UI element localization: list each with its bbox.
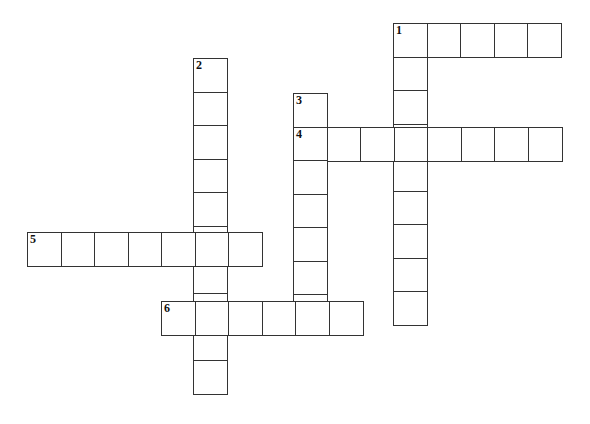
crossword-cell[interactable] bbox=[262, 301, 297, 336]
crossword-cell[interactable] bbox=[193, 159, 228, 194]
crossword-cell[interactable] bbox=[427, 23, 462, 58]
crossword-cell[interactable] bbox=[393, 57, 428, 92]
clue-number: 3 bbox=[296, 94, 302, 107]
crossword-cell[interactable] bbox=[293, 261, 328, 296]
crossword-cell[interactable] bbox=[393, 191, 428, 226]
crossword-cell[interactable] bbox=[293, 194, 328, 229]
clue-number: 5 bbox=[30, 233, 36, 246]
crossword-cell[interactable] bbox=[394, 127, 429, 162]
crossword-cell[interactable] bbox=[461, 127, 496, 162]
crossword-grid: 123456 bbox=[0, 0, 590, 424]
crossword-cell[interactable] bbox=[393, 157, 428, 192]
crossword-cell[interactable] bbox=[494, 23, 529, 58]
crossword-cell[interactable] bbox=[193, 92, 228, 127]
crossword-cell[interactable] bbox=[193, 360, 228, 395]
crossword-cell[interactable] bbox=[360, 127, 395, 162]
crossword-cell[interactable] bbox=[528, 127, 563, 162]
crossword-cell[interactable] bbox=[228, 232, 263, 267]
crossword-cell[interactable] bbox=[293, 227, 328, 262]
crossword-cell[interactable] bbox=[61, 232, 96, 267]
crossword-cell[interactable] bbox=[393, 90, 428, 125]
crossword-cell[interactable] bbox=[193, 192, 228, 227]
crossword-cell[interactable] bbox=[527, 23, 562, 58]
clue-number: 2 bbox=[196, 59, 202, 72]
crossword-cell[interactable] bbox=[295, 301, 330, 336]
crossword-cell[interactable] bbox=[94, 232, 129, 267]
crossword-cell[interactable] bbox=[393, 224, 428, 259]
crossword-cell[interactable] bbox=[161, 232, 196, 267]
crossword-cell[interactable] bbox=[494, 127, 529, 162]
crossword-cell[interactable] bbox=[460, 23, 495, 58]
crossword-cell[interactable] bbox=[195, 301, 230, 336]
crossword-cell[interactable] bbox=[427, 127, 462, 162]
crossword-cell[interactable] bbox=[293, 160, 328, 195]
crossword-cell[interactable] bbox=[195, 232, 230, 267]
crossword-cell[interactable] bbox=[228, 301, 263, 336]
crossword-cell[interactable] bbox=[128, 232, 163, 267]
clue-number: 4 bbox=[296, 128, 302, 141]
clue-number: 6 bbox=[164, 302, 170, 315]
crossword-cell[interactable] bbox=[327, 127, 362, 162]
crossword-cell[interactable] bbox=[193, 125, 228, 160]
clue-number: 1 bbox=[396, 24, 402, 37]
crossword-cell[interactable] bbox=[393, 258, 428, 293]
crossword-cell[interactable] bbox=[329, 301, 364, 336]
crossword-cell[interactable] bbox=[393, 291, 428, 326]
